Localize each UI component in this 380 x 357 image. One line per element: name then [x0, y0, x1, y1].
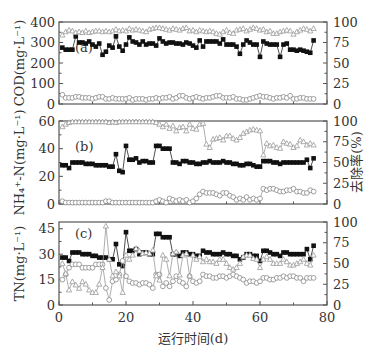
right-tick-label: 75: [333, 235, 350, 250]
series-effluent: [60, 186, 316, 205]
square-marker: [194, 45, 199, 50]
triangle-marker: [174, 249, 179, 254]
square-marker: [127, 35, 132, 40]
series-removal: [60, 119, 316, 157]
triangle-marker: [167, 273, 172, 278]
square-marker: [258, 55, 263, 60]
square-marker: [311, 156, 316, 161]
y-axis-label: NH₄⁺-N(mg·L⁻¹): [12, 109, 27, 215]
triangle-marker: [164, 122, 169, 127]
right-tick-label: 75: [333, 134, 350, 149]
right-tick-label: 25: [333, 277, 350, 292]
square-marker: [305, 157, 310, 162]
triangle-marker: [204, 141, 209, 146]
square-marker: [201, 44, 206, 49]
triangle-marker: [87, 287, 92, 292]
series-effluent: [60, 92, 316, 102]
square-marker: [311, 38, 316, 43]
square-marker: [104, 49, 109, 54]
left-tick-label: 400: [30, 15, 55, 30]
square-marker: [238, 51, 243, 56]
right-tick-label: 75: [333, 35, 350, 50]
square-marker: [67, 166, 72, 171]
triangle-marker: [97, 281, 102, 286]
y-axis-label: TN(mg·L⁻¹): [12, 226, 27, 302]
triangle-marker: [257, 265, 262, 270]
series-influent: [60, 34, 316, 59]
square-marker: [70, 47, 75, 52]
right-tick-label: 0: [333, 97, 341, 112]
square-marker: [278, 55, 283, 60]
circle-marker: [311, 96, 316, 101]
circle-marker: [311, 189, 316, 194]
square-marker: [274, 42, 279, 47]
left-tick-label: 300: [30, 35, 55, 50]
circle-marker: [184, 284, 189, 289]
circle-marker: [197, 279, 202, 284]
series-line: [62, 232, 313, 266]
x-tick-label: 20: [118, 310, 135, 325]
right-tick-label: 0: [333, 197, 341, 212]
triangle-marker: [241, 26, 246, 31]
square-marker: [120, 170, 125, 175]
left-tick-label: 40: [38, 141, 55, 156]
triangle-marker: [80, 279, 85, 284]
triangle-marker: [301, 257, 306, 262]
square-marker: [285, 41, 290, 46]
left-tick-label: 200: [30, 56, 55, 71]
triangle-marker: [311, 26, 316, 31]
triangle-marker: [150, 247, 155, 252]
square-marker: [114, 242, 119, 247]
circle-marker: [120, 259, 125, 264]
square-marker: [305, 247, 310, 252]
square-marker: [308, 166, 313, 171]
triangle-marker: [70, 279, 75, 284]
square-marker: [124, 144, 129, 149]
square-marker: [120, 48, 125, 53]
chart-container: 01002003004000255075100(a)COD(mg·L⁻¹)020…: [0, 0, 380, 357]
triangle-marker: [60, 261, 65, 266]
triangle-marker: [113, 269, 118, 274]
square-marker: [197, 38, 202, 43]
square-marker: [97, 41, 102, 46]
x-tick-label: 0: [55, 310, 63, 325]
circle-marker: [167, 284, 172, 289]
panel-c: 01530450255075100(c)TN(mg·L⁻¹): [12, 215, 358, 313]
circle-marker: [194, 196, 199, 201]
triangle-marker: [120, 290, 125, 295]
right-tick-label: 25: [333, 76, 350, 91]
triangle-marker: [204, 257, 209, 262]
right-tick-label: 50: [333, 155, 350, 170]
left-tick-label: 15: [38, 272, 55, 287]
right-tick-label: 100: [333, 15, 358, 30]
right-tick-label: 100: [333, 114, 358, 129]
triangle-marker: [187, 122, 192, 127]
circle-marker: [150, 286, 155, 291]
triangle-marker: [160, 252, 165, 257]
circle-marker: [171, 279, 176, 284]
triangle-marker: [294, 143, 299, 148]
square-marker: [234, 44, 239, 49]
left-tick-label: 20: [38, 169, 55, 184]
circle-marker: [104, 286, 109, 291]
panel-label: (c): [75, 226, 92, 241]
square-marker: [134, 156, 139, 161]
square-marker: [110, 45, 115, 50]
right-tick-label: 25: [333, 176, 350, 191]
left-tick-label: 0: [47, 197, 55, 212]
square-marker: [218, 41, 223, 46]
square-marker: [167, 146, 172, 151]
triangle-marker: [217, 135, 222, 140]
x-tick-label: 80: [319, 310, 336, 325]
square-marker: [124, 42, 129, 47]
square-marker: [154, 43, 159, 48]
triangle-marker: [180, 124, 185, 129]
square-marker: [114, 34, 119, 39]
series-line: [62, 122, 313, 155]
circle-marker: [311, 275, 316, 280]
triangle-marker: [267, 28, 272, 33]
triangle-marker: [261, 27, 266, 32]
x-axis-label: 运行时间(d): [158, 331, 228, 346]
circle-marker: [60, 277, 65, 282]
panel-label: (b): [75, 139, 93, 154]
